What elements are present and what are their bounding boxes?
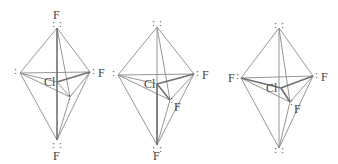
m3-top-lone-pair-dots: : — [274, 21, 277, 30]
m3-right-lone-pair-dots: : — [315, 71, 318, 80]
m2-front-lone-pair-dots: : — [170, 96, 173, 105]
m2-left-lone-pair-dots: : — [112, 69, 115, 78]
m1-right-fluorine-label: F — [98, 67, 105, 79]
m2-top-lone-pair-dots: : — [152, 19, 155, 28]
m3-left-fluorine-label: F — [228, 72, 235, 84]
m1-top-lone-pair-dots-2: : — [59, 20, 62, 29]
m2-chlorine-label: Cl — [144, 78, 155, 90]
m1-left-lone-pair-dots: : — [14, 67, 17, 76]
m2-right-lone-pair-dots: : — [196, 69, 199, 78]
m1-chlorine-label: Cl — [44, 76, 55, 88]
m2-right-fluorine-label: F — [202, 69, 209, 81]
m2-top-lone-pair-dots-2: : — [159, 19, 162, 28]
molecule-2-wireframe — [118, 27, 194, 145]
m3-left-lone-pair-dots: : — [236, 72, 239, 81]
m3-bottom-lone-pair-dots-2: : — [281, 146, 284, 155]
m3-bottom-lone-pair-dots: : — [274, 146, 277, 155]
clf3-geometry-figure: F : : : : F Cl : : : F : : : : F Cl : F … — [0, 0, 338, 164]
m3-front-lone-pair-dots: : — [290, 98, 293, 107]
m1-bottom-fluorine-label: F — [53, 150, 60, 162]
m1-top-lone-pair-dots: : — [52, 20, 55, 29]
m1-right-lone-pair-dots: : — [92, 67, 95, 76]
m3-chlorine-label: Cl — [266, 82, 277, 94]
m2-front-fluorine-label: F — [174, 101, 181, 113]
m3-right-fluorine-label: F — [321, 71, 328, 83]
m2-bottom-fluorine-label: F — [153, 150, 160, 162]
m3-front-fluorine-label: F — [294, 103, 301, 115]
m3-top-lone-pair-dots-2: : — [281, 21, 284, 30]
m1-front-lone-pair-dots: : — [68, 93, 71, 102]
